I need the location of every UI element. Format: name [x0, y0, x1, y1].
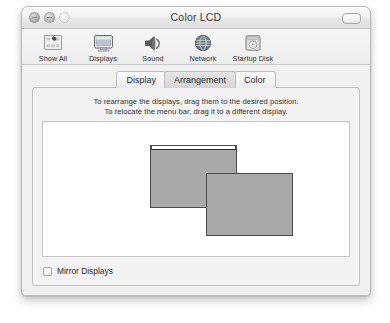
arrangement-panel: To rearrange the displays, drag them to …: [32, 87, 360, 286]
window-title: Color LCD: [22, 7, 370, 28]
mirror-displays-label: Mirror Displays: [57, 266, 113, 276]
toolbar-item-label: Network: [189, 54, 216, 63]
mirror-displays-checkbox[interactable]: [43, 267, 52, 276]
show-all-icon: [42, 32, 64, 53]
menu-bar-strip[interactable]: [151, 145, 236, 150]
startup-disk-icon: [242, 32, 264, 53]
preference-pane-content: Display Arrangement Color To rearrange t…: [22, 65, 370, 295]
tab-display[interactable]: Display: [116, 71, 166, 88]
display-arrangement-canvas[interactable]: [42, 121, 350, 257]
arrangement-instructions: To rearrange the displays, drag them to …: [33, 97, 359, 117]
toolbar-item-show-all[interactable]: Show All: [28, 31, 78, 63]
tab-bar: Display Arrangement Color: [22, 71, 370, 88]
toolbar-toggle-button[interactable]: [342, 13, 361, 24]
toolbar-item-startup-disk[interactable]: Startup Disk: [228, 31, 278, 63]
display-secondary[interactable]: [206, 173, 293, 236]
displays-icon: [92, 32, 114, 53]
displays-preference-window: Color LCD Show All: [21, 6, 371, 296]
toolbar-item-displays[interactable]: Displays: [78, 31, 128, 63]
preferences-toolbar: Show All Displays: [22, 29, 370, 65]
toolbar-item-network[interactable]: Network: [178, 31, 228, 63]
tab-arrangement[interactable]: Arrangement: [164, 71, 236, 88]
instruction-line-1: To rearrange the displays, drag them to …: [33, 97, 359, 107]
toolbar-item-label: Displays: [89, 54, 117, 63]
toolbar-item-label: Sound: [142, 54, 163, 63]
window-titlebar[interactable]: Color LCD: [22, 7, 370, 29]
sound-icon: [142, 32, 164, 53]
toolbar-item-label: Show All: [39, 54, 67, 63]
tab-color[interactable]: Color: [234, 71, 276, 88]
instruction-line-2: To relocate the menu bar, drag it to a d…: [33, 107, 359, 117]
toolbar-item-sound[interactable]: Sound: [128, 31, 178, 63]
mirror-displays-row[interactable]: Mirror Displays: [43, 266, 113, 276]
network-icon: [192, 32, 214, 53]
toolbar-item-label: Startup Disk: [233, 54, 273, 63]
